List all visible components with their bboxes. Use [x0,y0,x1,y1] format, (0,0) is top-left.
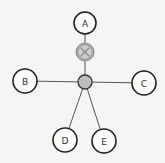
edge-c-hub [92,82,132,83]
edge-d-hub [69,89,83,129]
node-label: C [141,79,147,89]
valve-icon [76,43,94,61]
node-a[interactable]: A [74,12,96,34]
node-label: D [62,136,69,146]
node-d[interactable]: D [53,128,77,152]
node-label: B [22,77,28,87]
edge-e-hub [87,89,100,130]
edge-b-hub [37,81,78,82]
star-network-diagram: ABCDE [0,0,165,163]
node-c[interactable]: C [132,71,156,95]
hub-node [78,75,92,89]
node-b[interactable]: B [13,69,37,93]
node-label: E [101,137,107,147]
node-label: A [82,19,89,29]
node-e[interactable]: E [92,129,116,153]
